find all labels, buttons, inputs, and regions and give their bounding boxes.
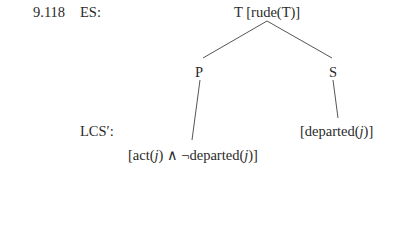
lcs-label: LCS′: — [80, 124, 114, 139]
left-lcs-value: [act(j) ∧ ¬departed(j)] — [128, 148, 258, 163]
tree-node-p: P — [195, 65, 203, 80]
right-lcs-value: [departed(j)] — [300, 124, 373, 139]
tree-node-s: S — [329, 65, 337, 80]
